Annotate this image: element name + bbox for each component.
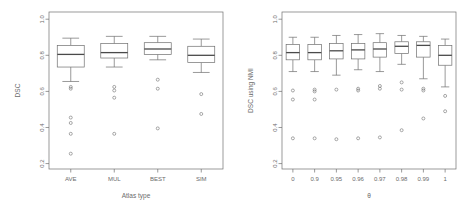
- x-axis-tick-label: 0: [291, 176, 295, 182]
- boxplot-box: [57, 38, 84, 155]
- boxplot-box: [286, 37, 299, 140]
- boxplot-box: [351, 35, 364, 140]
- plot-frame: [49, 12, 223, 169]
- x-axis-tick-label: BEST: [150, 176, 166, 182]
- outlier-point: [156, 127, 159, 130]
- outlier-point: [156, 78, 159, 81]
- boxplot-box: [188, 39, 215, 115]
- outlier-point: [357, 137, 360, 140]
- boxplot-box: [144, 36, 171, 130]
- x-axis-tick-label: 0.97: [374, 176, 386, 182]
- outlier-point: [444, 94, 447, 97]
- box-iqr: [395, 42, 408, 54]
- y-axis-tick-label: 0.8: [39, 50, 45, 59]
- x-axis-title: θ: [367, 192, 371, 199]
- box-iqr: [57, 45, 84, 67]
- outlier-point: [200, 112, 203, 115]
- outlier-point: [69, 121, 72, 124]
- y-axis-title: DSC using NMI: [247, 68, 255, 113]
- boxplot-box: [395, 35, 408, 131]
- y-axis-tick-label: 0.4: [39, 123, 45, 132]
- outlier-point: [113, 85, 116, 88]
- y-axis-tick-label: 1.0: [272, 14, 278, 23]
- box-iqr: [417, 42, 430, 57]
- outlier-point: [400, 81, 403, 84]
- outlier-point: [69, 152, 72, 155]
- outlier-point: [291, 137, 294, 140]
- boxplot-box: [308, 37, 321, 140]
- plot-frame: [282, 12, 456, 169]
- boxplot-svg: 0.20.40.60.81.0DSCAVEMULBESTSIMAtlas typ…: [0, 0, 233, 215]
- x-axis-tick-label: 0.99: [418, 176, 430, 182]
- y-axis-title: DSC: [14, 83, 21, 97]
- y-axis-tick-label: 0.2: [39, 159, 45, 168]
- outlier-point: [156, 87, 159, 90]
- boxplot-svg: 0.20.40.60.81.0DSC using NMI00.90.950.96…: [233, 0, 466, 215]
- outlier-point: [313, 90, 316, 93]
- x-axis-tick-label: 0.9: [310, 176, 319, 182]
- outlier-point: [422, 117, 425, 120]
- outlier-point: [400, 129, 403, 132]
- box-iqr: [373, 43, 386, 57]
- outlier-point: [313, 98, 316, 101]
- outlier-point: [113, 132, 116, 135]
- outlier-point: [291, 89, 294, 92]
- outlier-point: [422, 89, 425, 92]
- outlier-point: [113, 96, 116, 99]
- outlier-point: [335, 138, 338, 141]
- outlier-point: [313, 137, 316, 140]
- outlier-point: [69, 87, 72, 90]
- x-axis-tick-label: 0.95: [331, 176, 343, 182]
- outlier-point: [335, 88, 338, 91]
- x-axis-tick-label: 0.98: [396, 176, 408, 182]
- outlier-point: [69, 116, 72, 119]
- y-axis-tick-label: 0.6: [272, 87, 278, 96]
- y-axis-tick-label: 0.2: [272, 159, 278, 168]
- outlier-point: [113, 89, 116, 92]
- y-axis-tick-label: 0.8: [272, 50, 278, 59]
- y-axis-tick-label: 0.6: [39, 87, 45, 96]
- x-axis-tick-label: 1: [443, 176, 447, 182]
- x-axis-tick-label: MUL: [108, 176, 121, 182]
- outlier-point: [69, 132, 72, 135]
- boxplot-box: [101, 36, 128, 135]
- outlier-point: [400, 88, 403, 91]
- figure-canvas: 0.20.40.60.81.0DSCAVEMULBESTSIMAtlas typ…: [0, 0, 466, 215]
- outlier-point: [378, 136, 381, 139]
- y-axis-tick-label: 1.0: [39, 14, 45, 23]
- outlier-point: [357, 89, 360, 92]
- outlier-point: [444, 110, 447, 113]
- x-axis-tick-label: AVE: [65, 176, 77, 182]
- boxplot-box: [373, 34, 386, 139]
- x-axis-tick-label: SIM: [196, 176, 207, 182]
- box-iqr: [188, 46, 215, 62]
- x-axis-title: Atlas type: [122, 192, 151, 200]
- boxplot-panel-atlas-type: 0.20.40.60.81.0DSCAVEMULBESTSIMAtlas typ…: [0, 0, 233, 215]
- boxplot-box: [417, 36, 430, 120]
- outlier-point: [291, 98, 294, 101]
- boxplot-box: [330, 35, 343, 140]
- x-axis-tick-label: 0.96: [352, 176, 364, 182]
- y-axis-tick-label: 0.4: [272, 123, 278, 132]
- boxplot-panel-theta: 0.20.40.60.81.0DSC using NMI00.90.950.96…: [233, 0, 466, 215]
- box-iqr: [351, 44, 364, 59]
- box-iqr: [101, 44, 128, 58]
- outlier-point: [200, 93, 203, 96]
- boxplot-box: [438, 39, 451, 113]
